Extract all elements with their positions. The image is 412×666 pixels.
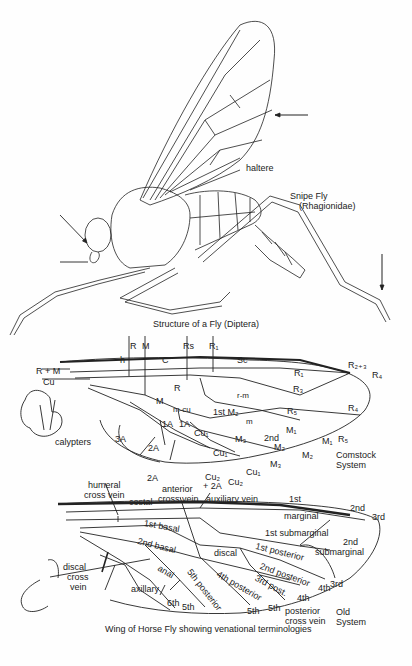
label-4th-a: 4th	[297, 593, 310, 603]
label-discal-cross-vein-3: vein	[70, 582, 87, 592]
label-humeral: humeral	[88, 480, 121, 490]
cell-marginal: marginal	[284, 511, 319, 521]
label-discal-cross-vein-1: discal	[63, 562, 86, 572]
old-system-label-2: System	[336, 617, 366, 627]
cell-1st-submarginal: 1st submarginal	[265, 528, 329, 538]
label-discal-cross-vein-2: cross	[67, 572, 89, 582]
cell-2nd-submarginal-1: 2nd	[343, 537, 358, 547]
label-5th-c: 5th	[268, 603, 281, 613]
label-costal: costal	[129, 497, 153, 507]
label-humeral-cross-vein: cross vein	[84, 490, 125, 500]
cell-axillary: axillary	[131, 584, 159, 594]
old-system-wing-diagram	[0, 0, 412, 666]
label-5th-a: 5th	[182, 602, 195, 612]
label-posterior: posterior	[285, 606, 320, 616]
diagram-canvas: haltere Snipe Fly (Rhagionidae) Structur…	[0, 0, 412, 666]
label-anterior-cross-vein: cross vein	[158, 494, 199, 504]
cell-2nd-submarginal-2: submarginal	[315, 547, 364, 557]
label-1st: 1st	[289, 494, 301, 504]
old-system-caption: Wing of Horse Fly showing venational ter…	[105, 624, 312, 634]
label-3rd: 3rd	[372, 512, 385, 522]
old-system-label-1: Old	[336, 607, 350, 617]
label-4th-b: 4th	[318, 583, 331, 593]
label-anterior: anterior	[162, 484, 193, 494]
label-6th: 6th	[167, 598, 180, 608]
label-3rd-b: 3rd	[330, 579, 343, 589]
label-5th-b: 5th	[247, 606, 260, 616]
label-auxiliary-vein: auxiliary vein	[206, 494, 258, 504]
cell-discal: discal	[214, 548, 237, 558]
label-2nd: 2nd	[350, 503, 365, 513]
